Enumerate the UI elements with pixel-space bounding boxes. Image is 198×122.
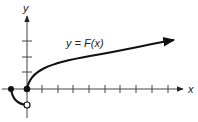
- open-circle-point: [24, 102, 30, 108]
- y-axis-label: y: [22, 2, 30, 14]
- origin-filled-dot: [24, 86, 31, 93]
- curve-label: y = F(x): [65, 37, 104, 49]
- left-endpoint-filled-dot: [8, 86, 14, 92]
- function-graph: y x y = F(x): [0, 0, 198, 122]
- x-axis-label: x: [187, 83, 194, 95]
